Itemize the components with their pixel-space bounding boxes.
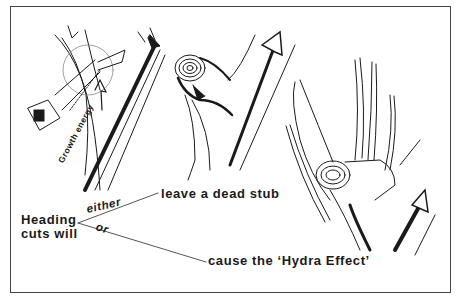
heading-line-1: Heading	[21, 213, 78, 227]
hydra-effect-outcome: cause the ‘Hydra Effect’	[208, 253, 370, 268]
growth-energy-arrow	[85, 45, 155, 190]
heading-cuts-label: Heading cuts will	[21, 213, 78, 241]
outer-arrow	[395, 205, 420, 250]
small-arrow	[95, 80, 106, 110]
dead-stub-outcome: leave a dead stub	[161, 186, 280, 201]
heading-line-2: cuts will	[21, 227, 78, 241]
saw-icon	[98, 50, 125, 70]
saw-cut-panel	[28, 26, 165, 190]
hydra-effect-panel	[286, 58, 435, 255]
redirect-arrow	[350, 205, 370, 250]
dead-stub-panel	[175, 32, 295, 180]
